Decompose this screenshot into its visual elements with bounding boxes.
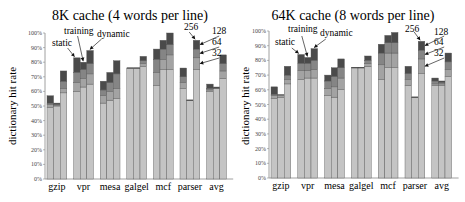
bar-segment-training-32: [278, 97, 285, 178]
bar-segment-static-64: [74, 83, 81, 92]
bar-segment-static-256: [432, 78, 439, 81]
bar-segment-dynamic-64: [167, 55, 174, 70]
bar-segment-dynamic-256: [311, 49, 318, 61]
bar-segment-static-32: [378, 80, 385, 178]
bar-segment-dynamic-256: [87, 51, 94, 64]
bar-group-parser: parser: [178, 40, 203, 192]
bar-segment-training-64: [107, 91, 114, 100]
y-tick-label: 60%: [255, 87, 266, 93]
arrow-icon: [295, 50, 299, 54]
bar-segment-dynamic-256: [338, 59, 345, 68]
bar-segment-training-128: [385, 43, 392, 53]
bar-segment-dynamic-128: [60, 81, 67, 88]
bar-segment-static-128: [180, 77, 187, 83]
y-tick-label: 50%: [31, 103, 42, 109]
bar-segment-dynamic-128: [113, 74, 120, 89]
bar-segment-dynamic-64: [365, 63, 372, 66]
x-tick-label: avg: [209, 181, 223, 192]
bar-segment-static-32: [271, 99, 278, 178]
bar-segment-dynamic-64: [113, 88, 120, 98]
bar-segment-dynamic-128: [445, 62, 452, 69]
bar-segment-static-32: [180, 88, 187, 179]
bar-segment-static-64: [47, 105, 54, 108]
chart-64k-svg: 64K cache (8 words per line) dictionary …: [235, 0, 465, 202]
y-tick-label: 0%: [34, 176, 42, 182]
bar-segment-dynamic-256: [140, 56, 147, 60]
bar-segment-training-32: [385, 68, 392, 178]
bar-segment-static-32: [325, 96, 332, 178]
bar-segment-dynamic-64: [60, 88, 67, 92]
bar-segment-training-64: [385, 53, 392, 68]
bar-segment-dynamic-128: [140, 61, 147, 64]
bar-segment-dynamic-256: [418, 41, 425, 50]
chart-64k-cache: 64K cache (8 words per line) dictionary …: [235, 0, 465, 202]
bar-segment-static-128: [47, 103, 54, 104]
y-tick-label: 80%: [255, 57, 266, 63]
bar-segment-dynamic-32: [365, 66, 372, 178]
bar-segment-dynamic-64: [220, 71, 227, 78]
y-tick-label: 100%: [252, 28, 266, 34]
bar-segment-dynamic-128: [418, 50, 425, 59]
bar-segment-dynamic-32: [391, 68, 398, 178]
bar-segment-training-64: [80, 78, 87, 87]
x-tick-label: mcf: [156, 181, 172, 192]
bar-segment-dynamic-64: [391, 53, 398, 68]
bar-segment-dynamic-32: [445, 77, 452, 178]
bar-segment-dynamic-64: [140, 64, 147, 67]
bar-segment-static-32: [351, 68, 358, 178]
y-tick-label: 40%: [255, 116, 266, 122]
bar-segment-static-128: [378, 53, 385, 65]
bar-segment-training-128: [54, 105, 61, 106]
bar-segment-static-64: [378, 65, 385, 80]
bar-segment-static-256: [153, 49, 160, 59]
bar-segment-static-128: [298, 63, 305, 70]
bar-segment-training-64: [331, 87, 338, 97]
y-tick-label: 90%: [31, 45, 42, 51]
bar-segment-static-256: [378, 44, 385, 53]
y-tick-label: 30%: [31, 132, 42, 138]
bar-segment-training-128: [160, 49, 167, 59]
bar-segment-dynamic-64: [418, 59, 425, 74]
bar-group-gzip: gzip: [47, 71, 67, 192]
bar-segment-training-64: [160, 59, 167, 69]
bar-segment-static-64: [432, 84, 439, 85]
bar-group-avg: avg: [207, 55, 227, 192]
bar-group-avg: avg: [432, 53, 452, 191]
bar-segment-dynamic-64: [311, 69, 318, 78]
bar-group-mcf: mcf: [153, 33, 173, 192]
bar-segment-training-64: [278, 96, 285, 97]
bar-segment-static-32: [153, 86, 160, 179]
bar-segment-static-64: [405, 80, 412, 86]
bar-group-galgel: galgel: [349, 56, 374, 191]
bar-segment-static-64: [271, 96, 278, 99]
annotation-static: static: [52, 38, 72, 48]
bar-segment-dynamic-128: [193, 49, 200, 58]
bar-group-galgel: galgel: [124, 56, 149, 192]
bar-segment-static-256: [180, 68, 187, 77]
bar-segment-dynamic-128: [87, 64, 94, 74]
y-tick-label: 10%: [255, 160, 266, 166]
bar-segment-dynamic-32: [140, 67, 147, 179]
bar-segment-dynamic-128: [391, 43, 398, 53]
bar-segment-training-32: [304, 78, 311, 178]
annotation-128: 128: [212, 26, 227, 36]
bar-group-mesa: mesa: [324, 59, 345, 191]
bar-segment-training-128: [331, 77, 338, 87]
bar-segment-dynamic-64: [193, 58, 200, 70]
bar-group-mcf: mcf: [378, 32, 398, 191]
bar-groups: gzipvprmesagalgelmcfparseravg: [271, 32, 452, 191]
bar-segment-training-256: [107, 72, 114, 82]
bar-segment-dynamic-256: [193, 40, 200, 49]
bar-segment-dynamic-128: [284, 75, 291, 79]
bar-segment-static-32: [74, 91, 81, 179]
bar-segment-dynamic-256: [365, 56, 372, 60]
bar-segment-static-128: [153, 59, 160, 72]
bar-group-vpr: vpr: [298, 49, 318, 191]
bar-segment-training-256: [304, 57, 311, 63]
bar-segment-dynamic-128: [167, 45, 174, 55]
bar-segment-static-64: [298, 71, 305, 80]
bar-segment-static-32: [100, 103, 107, 179]
bar-segment-static-256: [405, 66, 412, 73]
bar-segment-training-128: [80, 70, 87, 79]
bar-segment-static-64: [325, 88, 332, 95]
